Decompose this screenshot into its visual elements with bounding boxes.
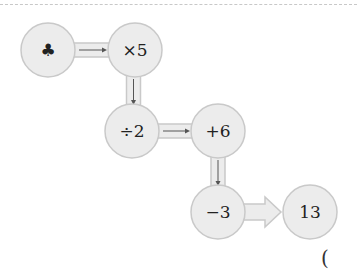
answer-paren: ( [321, 246, 329, 270]
edge-start-op1 [71, 43, 112, 57]
edge-op2-op3 [155, 124, 195, 138]
node-start: ♣ [21, 23, 75, 77]
club-icon: ♣ [40, 40, 55, 60]
edge-op3-op4 [211, 154, 225, 189]
diagram-stage: ♣×5÷2+6−313 ( [0, 0, 357, 272]
flow-diagram: ♣×5÷2+6−313 [0, 0, 357, 272]
node-op4: −3 [191, 185, 245, 239]
node-label: 13 [299, 202, 321, 222]
node-label: ÷2 [119, 121, 144, 141]
node-op2: ÷2 [105, 104, 159, 158]
node-op3: +6 [191, 104, 245, 158]
big-arrow-icon [241, 197, 281, 227]
node-result: 13 [283, 185, 337, 239]
node-label: +6 [205, 121, 230, 141]
node-label: ×5 [122, 40, 147, 60]
edge-op4-result [241, 197, 281, 227]
edge-op1-op2 [127, 73, 141, 108]
node-op1: ×5 [108, 23, 162, 77]
node-label: −3 [205, 202, 230, 222]
